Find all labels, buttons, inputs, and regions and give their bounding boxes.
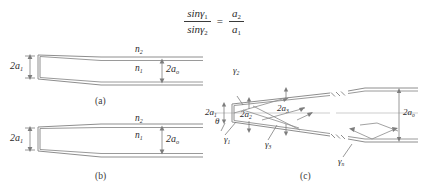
panel-c-dim-a3-label: 2a3 [277, 104, 289, 114]
panel-c-angle-gamma1-label: γ1 [224, 135, 230, 145]
panel-c-angle-gamma3-label: γ3 [265, 140, 271, 150]
panel-c-angle-theta-label: θ [215, 117, 219, 126]
panel-c-angle-gamman-label: γn [338, 157, 344, 167]
panel-c-drawing [0, 0, 427, 191]
panel-c-dim-a2-label: 2a2 [240, 110, 252, 120]
caption-c: (c) [300, 172, 311, 182]
figure-root: sinγ1 sinγ2 = a2 a1 2a1 2ao n2 n [0, 0, 427, 191]
panel-c-right-dim-label: 2ao [403, 108, 415, 118]
panel-c-angle-gamma2-label: γ2 [233, 66, 239, 76]
